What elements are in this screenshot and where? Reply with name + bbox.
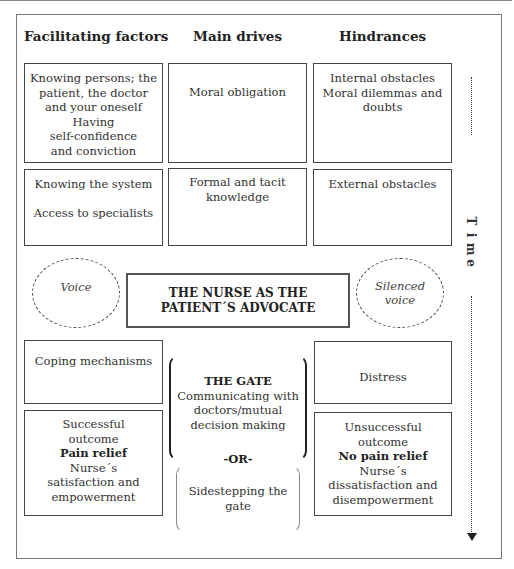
box-coping-mechanisms: Coping mechanisms [24,340,163,404]
sidestep-text: Sidestepping the gate [176,484,300,513]
or-label: -OR- [170,452,306,466]
text-line: Nurse´s [25,461,162,476]
gate-title: THE GATE [170,374,306,389]
text-line: empowerment [25,490,162,505]
text-line: dissatisfaction and [315,478,451,493]
text-line: Successful [25,417,162,432]
text-line: doctors/mutual [170,403,306,418]
text-line: Moral dilemmas and [314,86,451,101]
text-line: gate [176,499,300,514]
box-external-obstacles: External obstacles [313,169,452,246]
text-line: THE NURSE AS THE [169,286,308,301]
time-axis-dotted-line-top [471,77,472,135]
text-line: PATIENT´S ADVOCATE [161,301,316,316]
heading-main-drives: Main drives [168,28,307,44]
arrow-down-icon [467,533,477,541]
text-line: self-confidence [25,129,162,144]
heading-hindrances: Hindrances [313,28,452,44]
time-letter: e [464,255,478,271]
heading-facilitating-factors: Facilitating factors [24,28,162,44]
top-rule [0,0,512,1]
text-line: and your oneself [25,100,162,115]
box-unsuccessful-outcome: Unsuccessful outcome No pain relief Nurs… [314,412,452,516]
text-line: Unsuccessful [315,420,451,435]
box-internal-obstacles: Internal obstacles Moral dilemmas and do… [313,63,452,163]
box-distress: Distress [314,341,452,404]
text-line: Silenced [375,279,425,293]
text-line: Sidestepping the [176,484,300,499]
text-line: patient, the doctor [25,86,162,101]
text-line: outcome [315,435,451,450]
text-line: voice [385,293,415,307]
text-line: Knowing persons; the [25,71,162,86]
time-label: T i m e [463,214,479,270]
text-line: Internal obstacles [314,71,451,86]
text-line: Having [25,115,162,130]
pain-relief-label: Pain relief [25,446,162,461]
box-knowing-system: Knowing the system Access to specialists [24,169,163,246]
text-line: Moral obligation [169,85,306,100]
box-knowing-persons: Knowing persons; the patient, the doctor… [24,63,163,163]
text-line: Communicating with [170,389,306,404]
text-line: doubts [314,100,451,115]
text-line: Distress [315,370,451,385]
text-line: outcome [25,432,162,447]
text-line: Coping mechanisms [25,354,162,369]
box-successful-outcome: Successful outcome Pain relief Nurse´s s… [24,410,163,516]
text-line: knowledge [169,190,306,205]
text-line: decision making [170,418,306,433]
silenced-voice-ellipse: Silenced voice [356,258,444,328]
voice-ellipse: Voice [32,258,120,328]
text-line: Access to specialists [25,206,162,221]
text-line: External obstacles [314,177,451,192]
text-line: Knowing the system [25,177,162,192]
gate-text: THE GATE Communicating with doctors/mutu… [170,374,306,432]
no-pain-relief-label: No pain relief [315,449,451,464]
box-formal-tacit-knowledge: Formal and tacit knowledge [168,168,307,246]
voice-label: Voice [60,280,91,294]
box-moral-obligation: Moral obligation [168,63,307,163]
text-line: disempowerment [315,493,451,508]
nurse-advocate-box: THE NURSE AS THE PATIENT´S ADVOCATE [126,273,350,328]
time-axis-dotted-line-bottom [471,296,472,534]
text-line: satisfaction and [25,475,162,490]
text-line: Formal and tacit [169,175,306,190]
text-line: and conviction [25,144,162,159]
text-line: Nurse´s [315,464,451,479]
